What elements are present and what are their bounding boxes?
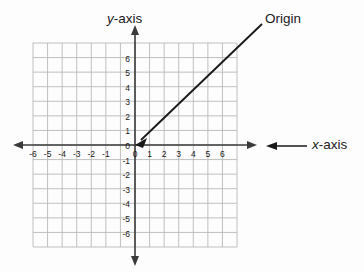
y-axis-title-variable: y	[107, 11, 114, 26]
coordinate-plane-figure: y-axis x-axis Origin -6 -5 -4 -3 -2 -1 0…	[0, 0, 364, 272]
y-tick-label: 6	[116, 55, 130, 64]
y-tick-label: 1	[116, 127, 130, 136]
coordinate-plane-graphic	[0, 0, 364, 272]
y-tick-label-zero: 0	[116, 142, 130, 151]
x-tick-label: -3	[70, 150, 84, 159]
y-tick-label: -1	[116, 157, 130, 166]
x-tick-label: -2	[84, 150, 98, 159]
x-tick-label: 2	[157, 150, 171, 159]
x-axis-title: x-axis	[312, 138, 347, 152]
x-tick-label: 5	[201, 150, 215, 159]
y-tick-label: -4	[116, 200, 130, 209]
y-tick-label: -2	[116, 171, 130, 180]
x-axis-caption-arrow	[266, 142, 307, 150]
y-axis-title-suffix: -axis	[114, 11, 143, 26]
origin-label: Origin	[265, 12, 301, 26]
y-tick-label: 5	[116, 69, 130, 78]
x-tick-label: 3	[172, 150, 186, 159]
x-tick-label-zero: 0	[128, 150, 142, 159]
x-axis-title-suffix: -axis	[319, 137, 348, 152]
y-tick-label: -6	[116, 230, 130, 239]
y-tick-label: 4	[116, 84, 130, 93]
x-tick-label: -5	[41, 150, 55, 159]
y-tick-label: -3	[116, 186, 130, 195]
x-tick-label: 4	[186, 150, 200, 159]
x-axis-title-variable: x	[312, 137, 319, 152]
y-tick-label: 2	[116, 113, 130, 122]
x-tick-label: -6	[26, 150, 40, 159]
x-tick-label: -1	[99, 150, 113, 159]
y-axis-title: y-axis	[107, 12, 142, 26]
x-tick-label: 1	[143, 150, 157, 159]
y-tick-label: -5	[116, 215, 130, 224]
y-tick-label: 3	[116, 98, 130, 107]
x-tick-label: 6	[215, 150, 229, 159]
x-tick-label: -4	[55, 150, 69, 159]
